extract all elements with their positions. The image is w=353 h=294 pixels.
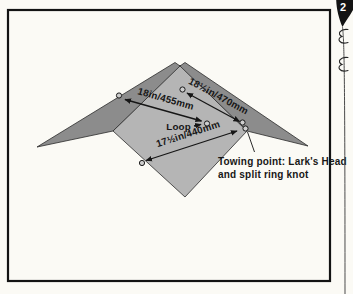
loop-point <box>204 121 209 126</box>
bridle-point <box>139 160 144 165</box>
tail-bow-icon <box>339 57 348 71</box>
towing-note-line1: Towing point: Lark's Head <box>218 156 347 167</box>
illustration-page: 18in/455mm 18½in/470mm 17½in/440mm Loop … <box>0 0 353 294</box>
towing-note-line2: and split ring knot <box>218 169 309 180</box>
bridle-point <box>116 93 121 98</box>
towing-leader-line <box>248 132 255 152</box>
page-number: 2 <box>340 1 346 13</box>
bridle-point <box>180 87 185 92</box>
towing-point-ring <box>240 120 245 125</box>
label-loop: Loop <box>166 121 191 132</box>
towing-point-ring <box>243 126 248 131</box>
